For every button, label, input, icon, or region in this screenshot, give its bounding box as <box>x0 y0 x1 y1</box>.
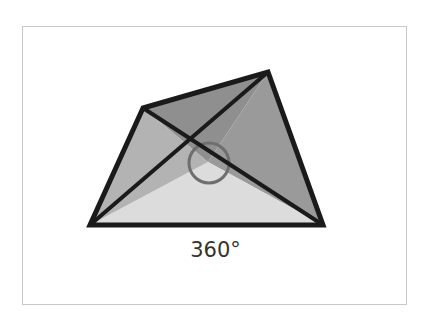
quadrilateral-diagram <box>0 0 431 324</box>
angle-sum-caption: 360° <box>0 238 431 262</box>
